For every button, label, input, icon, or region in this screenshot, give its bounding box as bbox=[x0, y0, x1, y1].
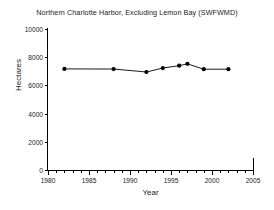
data-point bbox=[185, 62, 189, 66]
x-tick-mark-minor bbox=[204, 171, 205, 173]
x-tick-label: 1980 bbox=[41, 177, 56, 184]
x-tick-mark-minor bbox=[155, 171, 156, 173]
x-tick-mark-minor bbox=[220, 171, 221, 173]
x-tick-mark-minor bbox=[187, 171, 188, 173]
data-series-seagrass-area bbox=[48, 29, 253, 170]
plot-area: 0200040006000800010000 bbox=[48, 29, 253, 170]
x-tick-mark-minor bbox=[179, 171, 180, 173]
x-tick-label: 1995 bbox=[164, 177, 179, 184]
data-point bbox=[226, 67, 230, 71]
data-point bbox=[202, 67, 206, 71]
data-point bbox=[144, 70, 148, 74]
x-tick-label: 1990 bbox=[123, 177, 138, 184]
y-tick-label: 8000 bbox=[28, 54, 43, 61]
chart-figure: Northern Charlotte Harbor, Excluding Lem… bbox=[0, 0, 274, 210]
x-tick-mark-major bbox=[130, 171, 131, 175]
x-tick-mark-major bbox=[212, 171, 213, 175]
y-axis-label: Hectares bbox=[14, 35, 24, 115]
data-point bbox=[62, 67, 66, 71]
x-tick-mark-major bbox=[171, 171, 172, 175]
x-tick-mark-minor bbox=[196, 171, 197, 173]
x-tick-label: 2005 bbox=[246, 177, 261, 184]
x-tick-label: 2000 bbox=[205, 177, 220, 184]
x-tick-mark-major bbox=[48, 171, 49, 175]
x-tick-mark-minor bbox=[122, 171, 123, 173]
x-tick-mark-minor bbox=[73, 171, 74, 173]
x-tick-mark-major bbox=[253, 171, 254, 175]
x-tick-mark-minor bbox=[56, 171, 57, 173]
chart-title: Northern Charlotte Harbor, Excluding Lem… bbox=[0, 8, 274, 17]
y-tick-label: 10000 bbox=[25, 26, 43, 33]
x-tick-mark-minor bbox=[245, 171, 246, 173]
y-tick-label: 0 bbox=[39, 167, 43, 174]
right-axis-stub bbox=[253, 158, 254, 171]
x-tick-mark-minor bbox=[163, 171, 164, 173]
x-tick-mark-minor bbox=[228, 171, 229, 173]
x-tick-mark-minor bbox=[105, 171, 106, 173]
data-point bbox=[177, 64, 181, 68]
y-tick-label: 4000 bbox=[28, 110, 43, 117]
x-tick-mark-minor bbox=[146, 171, 147, 173]
data-point bbox=[112, 67, 116, 71]
x-tick-mark-minor bbox=[138, 171, 139, 173]
x-tick-mark-minor bbox=[81, 171, 82, 173]
x-tick-mark-minor bbox=[237, 171, 238, 173]
x-axis-ticks: 198019851990199520002005 bbox=[48, 171, 253, 191]
x-tick-label: 1985 bbox=[82, 177, 97, 184]
data-point bbox=[161, 66, 165, 70]
y-tick-label: 2000 bbox=[28, 138, 43, 145]
x-tick-mark-minor bbox=[114, 171, 115, 173]
x-tick-mark-minor bbox=[97, 171, 98, 173]
series-markers bbox=[62, 62, 230, 74]
x-tick-mark-major bbox=[89, 171, 90, 175]
x-tick-mark-minor bbox=[64, 171, 65, 173]
y-tick-label: 6000 bbox=[28, 82, 43, 89]
